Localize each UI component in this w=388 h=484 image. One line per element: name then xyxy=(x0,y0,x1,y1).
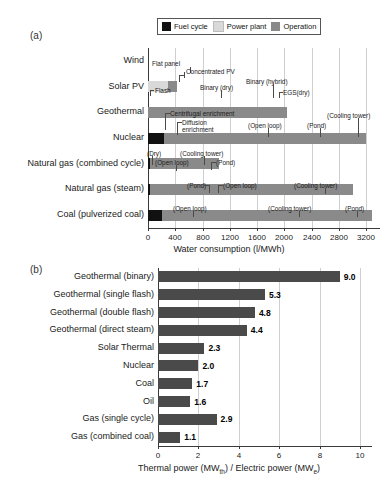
annotation-17: (Open loop) xyxy=(223,182,257,189)
leader-line xyxy=(209,185,210,193)
category-label-solar-pv: Solar PV xyxy=(0,81,144,91)
figure-root: (a) Fuel cyclePower plantOperation 04008… xyxy=(0,0,388,484)
leader-line xyxy=(193,211,194,217)
bar-solar-thermal xyxy=(158,343,204,354)
bar-value-label: 9.0 xyxy=(344,272,356,282)
leader-line xyxy=(165,113,166,130)
leader-line xyxy=(218,185,219,193)
category-label-geothermal-single-flash: Geothermal (single flash) xyxy=(0,289,154,299)
bar-oil xyxy=(158,396,190,407)
bar-geothermal-double-flash xyxy=(158,307,255,318)
leader-line xyxy=(179,75,184,76)
x-tick-label: 6 xyxy=(267,451,291,460)
category-label-gas-single-cycle: Gas (single cycle) xyxy=(0,413,154,423)
annotation-5: EGS(dry) xyxy=(283,89,310,96)
leader-line xyxy=(177,122,182,123)
leader-line xyxy=(358,118,359,137)
category-label-solar-thermal: Solar Thermal xyxy=(0,342,154,352)
leader-line xyxy=(211,162,216,163)
annotation-19: (Open loop) xyxy=(173,205,207,212)
category-label-natural-gas-combined-cycle: Natural gas (combined cycle) xyxy=(0,158,144,168)
annotation-13: (Cooling tower) xyxy=(180,150,223,157)
category-label-nuclear: Nuclear xyxy=(0,360,154,370)
x-axis xyxy=(148,228,380,229)
gridline xyxy=(360,268,361,446)
x-tick-label: 8 xyxy=(308,451,332,460)
x-tick xyxy=(257,228,258,231)
annotation-0: Flat panel xyxy=(152,60,180,67)
gridline xyxy=(320,268,321,446)
annotation-9: (Open loop) xyxy=(248,122,282,129)
category-label-wind: Wind xyxy=(0,55,144,65)
annotation-8: enrichment xyxy=(182,126,214,133)
leader-line xyxy=(179,75,180,82)
annotation-21: (Pond) xyxy=(345,205,364,212)
category-label-coal-pulverized-coal: Coal (pulverized coal) xyxy=(0,209,144,219)
x-axis-title: Thermal power (MWth) / Electric power (M… xyxy=(0,463,388,475)
annotation-18: (Cooling tower) xyxy=(294,182,337,189)
annotation-11: (Cooling tower) xyxy=(327,112,370,119)
leader-line xyxy=(177,122,178,135)
annotation-2: Flash xyxy=(155,87,171,94)
x-tick xyxy=(198,446,199,449)
x-tick xyxy=(203,228,204,231)
x-tick xyxy=(279,446,280,449)
leader-line xyxy=(204,185,209,186)
category-label-oil: Oil xyxy=(0,396,154,406)
bar-gas-combined-coal xyxy=(158,432,180,443)
bar-nuclear xyxy=(158,360,198,371)
category-label-geothermal-double-flash: Geothermal (double flash) xyxy=(0,307,154,317)
x-tick xyxy=(158,446,159,449)
bar-geothermal-binary xyxy=(158,271,340,282)
leader-line xyxy=(218,185,223,186)
annotation-20: (Cooling tower) xyxy=(268,205,311,212)
x-tick xyxy=(320,446,321,449)
category-label-coal: Coal xyxy=(0,378,154,388)
bar-gas-single-cycle xyxy=(158,414,217,425)
annotation-14: (Open loop) xyxy=(155,159,189,166)
annotation-4: Binary (hybrid) xyxy=(246,78,288,85)
leader-line xyxy=(176,165,177,171)
bar-nuclear xyxy=(148,133,366,144)
x-tick-label: 0 xyxy=(146,451,170,460)
x-tick-label: 3200 xyxy=(350,233,382,242)
category-label-geothermal-binary: Geothermal (binary) xyxy=(0,271,154,281)
category-label-natural-gas-steam: Natural gas (steam) xyxy=(0,183,144,193)
bar-geothermal-single-flash xyxy=(158,289,265,300)
leader-line xyxy=(268,128,269,137)
x-tick-label: 4 xyxy=(227,451,251,460)
x-tick xyxy=(239,446,240,449)
bar-value-label: 1.7 xyxy=(196,379,208,389)
leader-line xyxy=(273,84,274,98)
bar-value-label: 2.0 xyxy=(202,361,214,371)
category-label-geothermal-direct-steam: Geothermal (direct steam) xyxy=(0,324,154,334)
segment-fuel-cycle xyxy=(148,210,162,221)
x-tick xyxy=(339,228,340,231)
chart-b-thermal-electric-ratio: 0246810Geothermal (binary)9.0Geothermal … xyxy=(0,250,388,484)
leader-line xyxy=(152,156,153,165)
bar-value-label: 4.4 xyxy=(251,325,263,335)
bar-coal xyxy=(158,378,192,389)
leader-line xyxy=(279,92,283,93)
leader-line xyxy=(204,156,205,165)
category-label-gas-combined-coal: Gas (combined coal) xyxy=(0,431,154,441)
bar-value-label: 2.3 xyxy=(208,343,220,353)
leader-line xyxy=(357,211,358,217)
annotation-12: (Dry) xyxy=(147,150,161,157)
segment-fuel-cycle xyxy=(148,133,164,144)
annotation-15: (Pond) xyxy=(216,159,235,166)
x-tick-label: 2 xyxy=(186,451,210,460)
annotation-1: Concentrated PV xyxy=(186,68,235,75)
x-tick xyxy=(284,228,285,231)
bar-geothermal-direct-steam xyxy=(158,325,247,336)
annotation-6: Centrifugal enrichment xyxy=(170,110,234,117)
bar-value-label: 1.1 xyxy=(184,432,196,442)
segment-operation xyxy=(164,133,366,144)
leader-line xyxy=(221,90,222,98)
leader-line xyxy=(150,90,154,91)
x-axis xyxy=(158,446,372,447)
bar-value-label: 4.8 xyxy=(259,308,271,318)
leader-line xyxy=(184,72,185,78)
x-tick xyxy=(312,228,313,231)
bar-value-label: 5.3 xyxy=(269,290,281,300)
